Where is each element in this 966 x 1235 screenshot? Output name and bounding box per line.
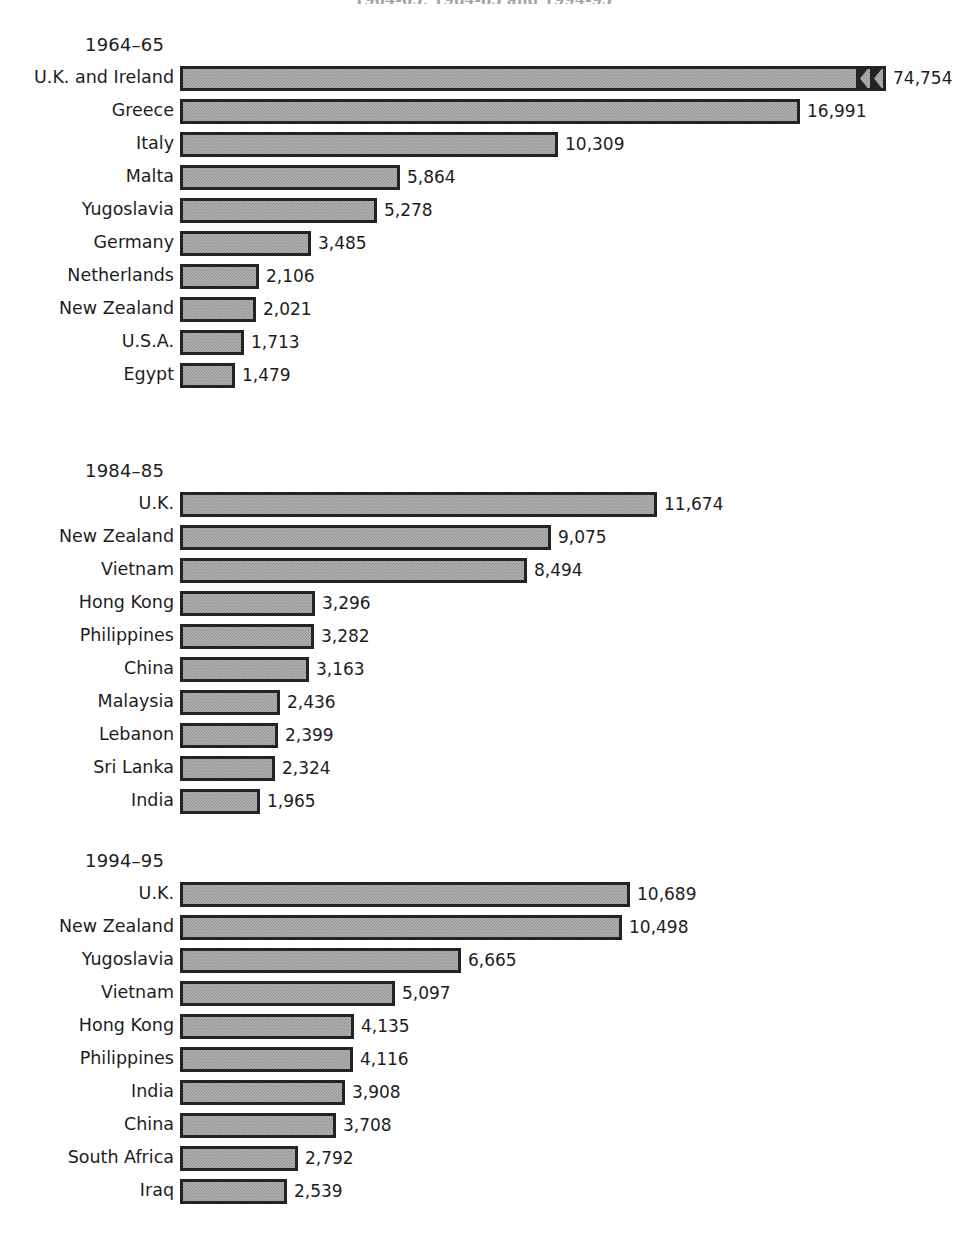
bar-container: 8,494 (180, 557, 583, 583)
bar-container: 5,097 (180, 980, 451, 1006)
bar-value-label: 3,708 (343, 1113, 392, 1138)
bar-category-label: Malaysia (98, 686, 174, 717)
bar (180, 1014, 354, 1039)
bar-category-label: Philippines (80, 1043, 174, 1074)
bar-row: Sri Lanka2,324 (0, 752, 966, 785)
bar-container: 10,689 (180, 881, 696, 907)
bar (180, 882, 630, 907)
bar-row: China3,708 (0, 1109, 966, 1142)
bar-category-label: Hong Kong (79, 1010, 174, 1041)
bar-row: U.K.10,689 (0, 878, 966, 911)
bar (180, 525, 551, 550)
bar-category-label: New Zealand (59, 911, 174, 942)
bar-container: 5,278 (180, 197, 433, 223)
bar-row: Malaysia2,436 (0, 686, 966, 719)
bar-container: 11,674 (180, 491, 723, 517)
bar-value-label: 2,792 (305, 1146, 354, 1171)
bar-category-label: Italy (136, 128, 174, 159)
bar-value-label: 2,106 (266, 264, 315, 289)
bar-row: Netherlands2,106 (0, 260, 966, 293)
bar (180, 915, 622, 940)
bar-value-label: 1,479 (242, 363, 291, 388)
bar-row: India3,908 (0, 1076, 966, 1109)
bar (180, 690, 280, 715)
bar-category-label: South Africa (68, 1142, 174, 1173)
bar (180, 624, 314, 649)
bar-container: 2,399 (180, 722, 334, 748)
bar-container: 10,309 (180, 131, 624, 157)
bar-value-label: 5,864 (407, 165, 456, 190)
bar (180, 723, 278, 748)
bar (180, 132, 558, 157)
bar-value-label: 2,324 (282, 756, 331, 781)
bar-row: Philippines4,116 (0, 1043, 966, 1076)
bar-value-label: 10,689 (637, 882, 696, 907)
bar-category-label: China (124, 1109, 174, 1140)
bar-row: U.S.A.1,713 (0, 326, 966, 359)
bar (180, 657, 309, 682)
bar (180, 1113, 336, 1138)
bar-category-label: China (124, 653, 174, 684)
bar (180, 492, 657, 517)
bar-container: 16,991 (180, 98, 866, 124)
bar-category-label: Malta (126, 161, 174, 192)
bar-row: New Zealand9,075 (0, 521, 966, 554)
bar-category-label: U.S.A. (122, 326, 174, 357)
bar-container: 2,106 (180, 263, 315, 289)
bar-row: South Africa2,792 (0, 1142, 966, 1175)
bar-value-label: 3,163 (316, 657, 365, 682)
bar-container: 3,163 (180, 656, 365, 682)
bar-row: Philippines3,282 (0, 620, 966, 653)
bar-row: Greece16,991 (0, 95, 966, 128)
panel-heading-1994-95: 1994–95 (85, 850, 164, 871)
bar-container: 2,539 (180, 1178, 343, 1204)
bar-container: 2,324 (180, 755, 331, 781)
bar-value-label: 4,135 (361, 1014, 410, 1039)
bar-chart-figure: 1964-65, 1984-85 and 1994-95 1964–65 U.K… (0, 0, 966, 1235)
bar-truncated (180, 66, 886, 91)
bar (180, 1047, 353, 1072)
bar-container: 3,296 (180, 590, 371, 616)
bar-value-label: 74,754 (893, 66, 952, 91)
bar-value-label: 2,539 (294, 1179, 343, 1204)
bar-row: Hong Kong3,296 (0, 587, 966, 620)
bar-value-label: 2,021 (263, 297, 312, 322)
bar-value-label: 2,399 (285, 723, 334, 748)
bar-category-label: New Zealand (59, 293, 174, 324)
bar-container: 4,135 (180, 1013, 410, 1039)
bar-category-label: India (131, 1076, 174, 1107)
bar (180, 558, 527, 583)
bar-row: Yugoslavia5,278 (0, 194, 966, 227)
bar (180, 198, 377, 223)
bar-value-label: 3,282 (321, 624, 370, 649)
bar-container: 1,479 (180, 362, 291, 388)
bar-value-label: 9,075 (558, 525, 607, 550)
bar-value-label: 10,309 (565, 132, 624, 157)
bar-category-label: U.K. (139, 878, 174, 909)
bar-row: Lebanon2,399 (0, 719, 966, 752)
bar-container: 10,498 (180, 914, 688, 940)
bar-row: India1,965 (0, 785, 966, 818)
bar-container: 6,665 (180, 947, 517, 973)
bar-value-label: 6,665 (468, 948, 517, 973)
bar-category-label: U.K. (139, 488, 174, 519)
bar-container: 3,485 (180, 230, 367, 256)
bar-row: Vietnam8,494 (0, 554, 966, 587)
bar (180, 363, 235, 388)
bar-category-label: Egypt (124, 359, 175, 390)
bar (180, 297, 256, 322)
bar-value-label: 5,278 (384, 198, 433, 223)
bar (180, 981, 395, 1006)
bar-value-label: 11,674 (664, 492, 723, 517)
bar-row: New Zealand2,021 (0, 293, 966, 326)
bar-row: Yugoslavia6,665 (0, 944, 966, 977)
bar-row: China3,163 (0, 653, 966, 686)
bar (180, 789, 260, 814)
panel-heading-1984-85: 1984–85 (85, 460, 164, 481)
bar-category-label: Greece (112, 95, 174, 126)
bar-row: Egypt1,479 (0, 359, 966, 392)
bar-container: 9,075 (180, 524, 607, 550)
bar (180, 330, 244, 355)
bar-value-label: 2,436 (287, 690, 336, 715)
bar-value-label: 4,116 (360, 1047, 409, 1072)
